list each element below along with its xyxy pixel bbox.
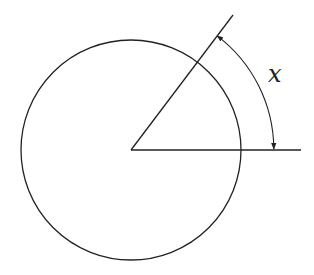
diagram-svg xyxy=(0,0,314,275)
angle-label-x: x xyxy=(268,62,282,86)
angle-arc-arrow xyxy=(217,36,274,149)
angle-diagram: x xyxy=(0,0,314,275)
